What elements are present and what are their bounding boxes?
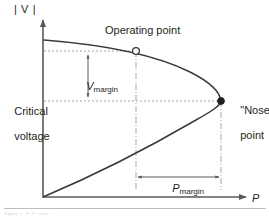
p-margin-subscript: margin (180, 187, 204, 196)
critical-voltage-label-line2: voltage (14, 130, 49, 142)
nose-point-marker (218, 98, 225, 105)
operating-point-label: Operating point (105, 24, 180, 36)
pv-nose-curve-figure: | V | P Operating point "Nose" point Cri… (0, 0, 269, 219)
nose-point-label: "Nose" point (228, 92, 269, 154)
p-margin-symbol: P (172, 182, 179, 194)
y-axis-label: | V | (14, 3, 36, 15)
critical-voltage-label-line1: Critical (14, 105, 48, 117)
nose-point-label-line1: "Nose" (240, 104, 269, 116)
footer-divider (4, 208, 266, 209)
v-margin-subscript: margin (94, 85, 118, 94)
x-axis-label: P (252, 192, 259, 204)
critical-voltage-label: Critical voltage (2, 93, 42, 155)
v-margin-symbol: V (86, 80, 93, 92)
operating-point-marker (133, 48, 140, 55)
v-margin-label: Vmargin (74, 68, 118, 106)
nose-point-label-line2: point (240, 129, 264, 141)
p-margin-label: Pmargin (160, 170, 204, 208)
footer-caption: Figure 1 P–V curve (5, 211, 49, 216)
